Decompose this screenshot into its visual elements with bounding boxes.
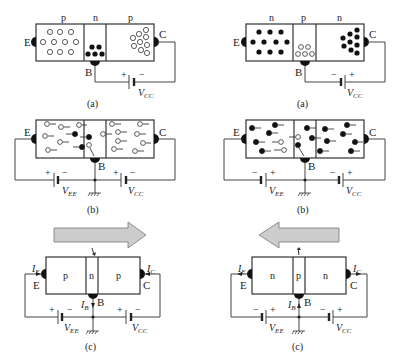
npn-panel-a: n p n E C B [233, 12, 385, 110]
region-label-p: p [296, 270, 301, 281]
emitter-label: E [233, 126, 240, 138]
ib-label: IB [287, 299, 296, 312]
svg-text:+: + [347, 167, 353, 178]
vcc-label: VCC [347, 87, 363, 100]
vee-label: VEE [62, 185, 77, 198]
svg-text:−: − [252, 167, 258, 178]
svg-text:+: + [349, 69, 355, 80]
npn-panel-b: E C B − + VEE − + VCC (b) [224, 120, 385, 216]
pnp-panel-b: E C B + − VEE + − VCC (b) [15, 120, 175, 216]
vcc-label: VCC [346, 185, 362, 198]
emitter-label: E [24, 126, 31, 138]
ground-symbol [88, 193, 101, 196]
pnp-panel-a: p n p E [24, 12, 175, 110]
pnp-column: p n p E [15, 12, 175, 353]
collector-terminal [346, 269, 351, 279]
emitter-label: E [24, 36, 31, 48]
vee-label: VEE [64, 322, 79, 335]
region-label-p: p [61, 12, 66, 23]
holes-emitter [40, 29, 78, 54]
ib-arrow-icon [91, 303, 95, 308]
svg-text:+: + [45, 167, 51, 178]
svg-text:+: + [270, 167, 276, 178]
caption-a: (a) [297, 98, 308, 110]
vcc-label: VCC [128, 185, 144, 198]
emitter-label: E [240, 279, 247, 291]
caption-c: (c) [292, 341, 303, 353]
collector-label: C [143, 279, 150, 291]
svg-text:+: + [270, 304, 276, 315]
ib-label: IB [80, 299, 89, 312]
collector-label: C [350, 279, 357, 291]
electrons-collector [340, 27, 359, 55]
svg-text:+: + [337, 304, 343, 315]
flow-arrow-right-icon [54, 222, 146, 248]
electrons-base [85, 44, 104, 56]
base-label: B [295, 66, 302, 78]
emitter-label: E [233, 36, 240, 48]
emitter-terminal [241, 37, 246, 47]
ib-arrow-icon [297, 303, 301, 308]
svg-text:−: − [331, 69, 337, 80]
caption-a: (a) [87, 98, 98, 110]
base-label: B [308, 160, 315, 172]
collector-label: C [369, 28, 376, 40]
svg-text:+: + [117, 304, 123, 315]
collector-label: C [159, 126, 166, 138]
caption-c: (c) [85, 341, 96, 353]
caption-b: (b) [297, 204, 309, 216]
region-label-n: n [93, 12, 98, 23]
holes-base [296, 45, 315, 57]
base-label: B [304, 296, 311, 308]
npn-panel-c: n p n E C B IE IC IB − [231, 222, 367, 353]
region-label-p: p [128, 12, 133, 23]
caption-b: (b) [87, 204, 99, 216]
base-label: B [85, 66, 92, 78]
vcc-label: VCC [132, 322, 148, 335]
svg-text:−: − [135, 304, 141, 315]
emitter-label: E [33, 279, 40, 291]
svg-text:−: − [130, 167, 136, 178]
base-label: B [98, 160, 105, 172]
svg-text:−: − [139, 69, 145, 80]
bjt-diagram: p n p E [0, 0, 402, 363]
emitter-terminal [241, 134, 246, 144]
svg-text:−: − [330, 167, 336, 178]
svg-text:−: − [253, 304, 259, 315]
holes-moving-right [43, 122, 151, 156]
svg-text:+: + [49, 304, 55, 315]
region-label-p: p [63, 270, 68, 281]
vee-label: VEE [269, 322, 284, 335]
base-terminal [294, 294, 304, 299]
region-label-n: n [337, 12, 342, 23]
emitter-terminal [247, 269, 252, 279]
pnp-panel-c: p n p E C B IE IC IB [25, 222, 160, 353]
region-label-n: n [269, 12, 274, 23]
vee-label: VEE [269, 185, 284, 198]
collector-label: C [159, 28, 166, 40]
collector-label: C [369, 126, 376, 138]
electrons-emitter [250, 29, 289, 54]
svg-text:−: − [320, 304, 326, 315]
emitter-terminal [31, 134, 36, 144]
region-label-p: p [301, 12, 306, 23]
region-label-n: n [89, 270, 94, 281]
ground-symbol [86, 331, 99, 334]
holes-collector [130, 27, 149, 55]
base-label: B [97, 296, 104, 308]
vcc-label: VCC [138, 87, 154, 100]
electrons-moving-right [249, 122, 363, 156]
ground-symbol [298, 193, 311, 196]
emitter-terminal [41, 269, 46, 279]
flow-arrow-left-icon [259, 222, 339, 248]
svg-text:−: − [62, 167, 68, 178]
svg-text:−: − [67, 304, 73, 315]
vcc-label: VCC [336, 322, 352, 335]
collector-terminal [140, 269, 145, 279]
emitter-terminal [31, 37, 36, 47]
svg-text:+: + [113, 167, 119, 178]
region-label-p: p [116, 270, 121, 281]
ground-symbol [292, 331, 305, 334]
region-label-n: n [270, 270, 275, 281]
npn-column: n p n E C B [224, 12, 385, 353]
